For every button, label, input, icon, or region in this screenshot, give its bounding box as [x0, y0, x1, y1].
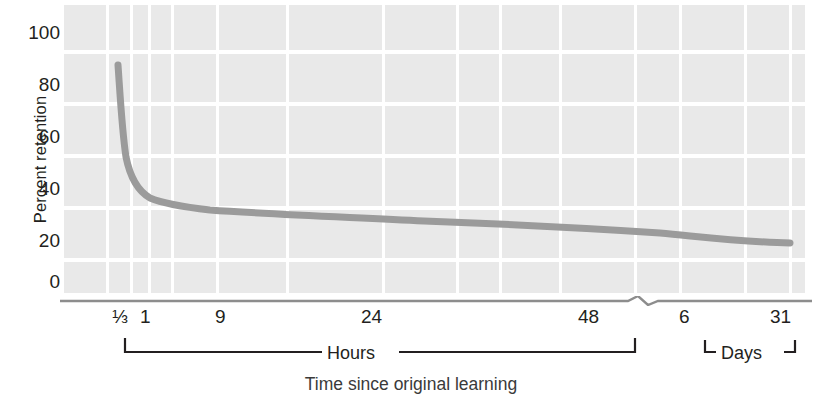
- y-axis-tick-labels: 100 80 60 40 20 0: [12, 0, 60, 300]
- y-tick-80: 80: [14, 75, 60, 94]
- y-tick-0: 0: [14, 272, 60, 291]
- y-tick-60: 60: [14, 127, 60, 146]
- x-axis-caption: Time since original learning: [0, 374, 822, 395]
- y-tick-100: 100: [14, 23, 60, 42]
- y-tick-40: 40: [14, 179, 60, 198]
- x-tick-31: 31: [770, 307, 791, 326]
- vertical-gridlines: [107, 5, 790, 293]
- x-tick-24: 24: [361, 307, 382, 326]
- x-tick-48: 48: [578, 307, 599, 326]
- x-tick-1: 1: [140, 307, 151, 326]
- x-tick-9: 9: [215, 307, 226, 326]
- x-axis-baseline: [60, 292, 812, 302]
- axis-break-line: [60, 296, 812, 305]
- horizontal-gridlines: [64, 52, 805, 260]
- forgetting-curve-figure: Percent retention 100 80 60 40 20 0: [0, 0, 822, 409]
- plot-svg: [64, 5, 805, 293]
- hours-bracket: [125, 338, 635, 352]
- x-tick-one-third: ⅓: [112, 307, 128, 326]
- x-tick-6: 6: [679, 307, 690, 326]
- plot-area: [64, 5, 805, 293]
- group-label-days: Days: [721, 344, 762, 362]
- x-tick-one-third-label: ⅓: [112, 306, 128, 327]
- group-label-hours: Hours: [327, 344, 375, 362]
- y-tick-20: 20: [14, 231, 60, 250]
- group-brackets: Hours Days: [0, 332, 822, 366]
